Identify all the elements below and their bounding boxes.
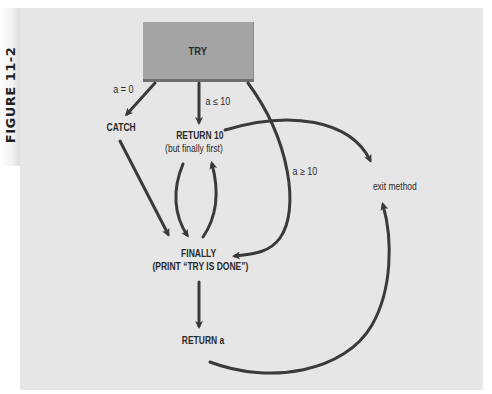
finally-node-subtitle: (PRINT “TRY IS DONE”) [152,261,248,273]
edge-label-a-le-10: a ≤ 10 [205,96,230,107]
arrow-finally-to-return10 [203,164,216,237]
exit-method-node: exit method [373,181,417,193]
edge-label-a-equals-0: a = 0 [113,84,133,95]
return10-node-subtitle: (but finally first) [165,143,223,155]
return-a-node: RETURN a [182,335,225,347]
arrow-returna-to-exit [210,205,389,373]
flow-arrows [0,0,492,394]
arrow-return10-to-exit [225,120,370,160]
arrow-catch-to-finally [120,141,168,234]
return10-node-title: RETURN 10 [176,130,223,142]
finally-node-title: FINALLY [181,248,216,260]
catch-node: CATCH [107,122,136,134]
arrow-try-to-finally [235,83,290,256]
edge-label-a-ge-10: a ≥ 10 [292,166,317,177]
arrow-return10-to-finally [176,164,187,235]
